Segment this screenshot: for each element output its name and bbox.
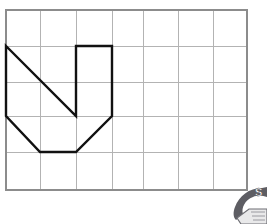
grid-and-shape-figure: [0, 0, 267, 224]
letter-n-polygon: [6, 46, 112, 152]
grid-horizontal-lines: [6, 46, 247, 152]
grid-border: [6, 10, 247, 190]
figure-canvas: S: [0, 0, 267, 224]
grid-vertical-lines: [40, 10, 213, 190]
